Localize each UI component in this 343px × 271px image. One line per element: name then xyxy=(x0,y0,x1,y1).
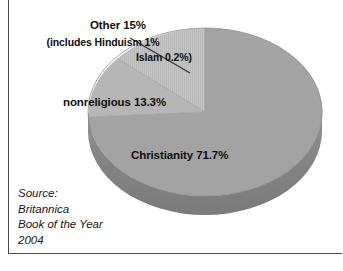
source-line-1: Source: xyxy=(18,186,103,202)
source-line-3: Book of the Year xyxy=(18,217,103,233)
slice-label-christianity: Christianity 71.7% xyxy=(131,149,228,161)
slice-label-nonreligious: nonreligious 13.3% xyxy=(63,96,166,108)
slice-sublabel-other-islam: Islam 0.2%) xyxy=(14,51,192,63)
slice-sublabel-other-hinduism: (includes Hinduism 1% xyxy=(14,36,192,48)
source-line-4: 2004 xyxy=(18,233,103,249)
source-citation: Source: Britannica Book of the Year 2004 xyxy=(18,186,103,248)
pie-chart-figure: Other 15% (includes Hinduism 1% Islam 0.… xyxy=(0,0,343,271)
slice-label-other: Other 15% xyxy=(44,19,192,31)
source-line-2: Britannica xyxy=(18,202,103,218)
